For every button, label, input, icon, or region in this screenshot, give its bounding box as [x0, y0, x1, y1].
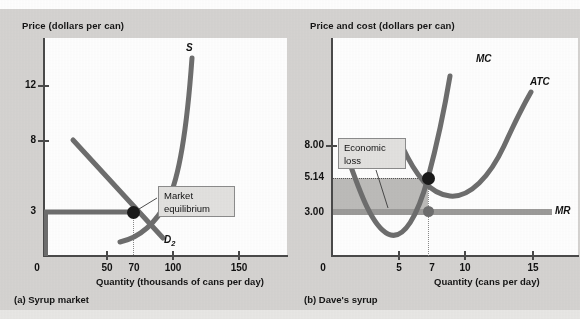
panel-a-demand-label-subscript: 2: [171, 239, 175, 248]
panel-a-callout-leader-line: [139, 198, 157, 209]
panel-a-demand-curve: [73, 140, 163, 238]
panel-a-callout-line-2: equilibrium: [164, 203, 229, 216]
bottom-strip: [0, 310, 580, 319]
panel-a-curves: [0, 0, 290, 310]
panel-a-supply-label: S: [186, 42, 193, 53]
panel-b-output-price-dot: [423, 206, 434, 217]
panel-b-atc-point-dot: [422, 172, 435, 185]
panel-a-equilibrium-dot: [127, 206, 140, 219]
panel-a-market-equilibrium-callout: Market equilibrium: [158, 186, 235, 217]
panel-a-demand-label: D2: [164, 234, 175, 248]
panel-syrup-market: Price (dollars per can) 12 8 3 50 100 15…: [0, 0, 290, 310]
panel-b-economic-loss-callout: Economic loss: [338, 138, 406, 169]
panel-b-x-axis-title: Quantity (cans per day): [434, 276, 540, 287]
panel-daves-syrup: Price and cost (dollars per can) 8.00 5.…: [290, 0, 580, 310]
panel-a-callout-line-1: Market: [164, 190, 229, 203]
panel-a-x-axis-title: Quantity (thousands of cans per day): [96, 276, 264, 287]
panel-b-caption: (b) Dave's syrup: [304, 294, 378, 305]
panel-b-callout-line-2: loss: [344, 155, 400, 168]
panel-b-marginal-revenue-label: MR: [555, 205, 571, 216]
panel-b-curves: [290, 0, 580, 310]
panel-a-caption: (a) Syrup market: [14, 294, 89, 305]
panel-b-callout-leader-line: [376, 170, 388, 208]
economics-figure: Price (dollars per can) 12 8 3 50 100 15…: [0, 0, 580, 319]
panel-b-callout-line-1: Economic: [344, 142, 400, 155]
panel-b-marginal-cost-label: MC: [476, 53, 492, 64]
panel-b-average-total-cost-label: ATC: [530, 76, 550, 87]
